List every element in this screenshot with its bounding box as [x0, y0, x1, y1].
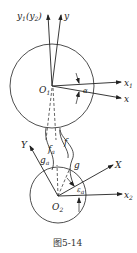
- gear-coordinate-diagram: y1(y2) y O1 x1 x α fa f ga g Y X x2 O2 ε…: [0, 0, 137, 253]
- dashed-line-o2-right: [58, 168, 70, 196]
- axis-y-arrow: [52, 15, 61, 86]
- axis-x-label: x: [124, 94, 129, 104]
- origin-o1-label: O1: [39, 85, 50, 96]
- curve-g-a-label: ga: [40, 155, 50, 166]
- axis-X-label: X: [114, 160, 122, 170]
- axis-x2-label: x2: [124, 190, 133, 201]
- axis-x1-label: x1: [124, 78, 133, 89]
- curve-g-label: g: [74, 160, 80, 170]
- alpha-indicator-top: [76, 73, 79, 83]
- angle-alpha-label: α: [83, 87, 88, 95]
- axis-x1-arrow: [52, 82, 121, 86]
- axis-y1-label: y1(y2): [16, 11, 42, 22]
- dashed-line-o2-left: [57, 165, 58, 196]
- dashed-line-right: [53, 88, 56, 140]
- axis-x2-arrow: [58, 194, 122, 196]
- axis-Y-label: Y: [21, 140, 28, 150]
- origin-o2-label: O2: [52, 202, 63, 213]
- axis-y1-arrow: [48, 15, 52, 86]
- figure-caption: 图5-14: [53, 238, 82, 248]
- curve-f-a-label: fa: [47, 144, 55, 155]
- alpha-indicator-bottom: [76, 92, 79, 104]
- axis-y-label: y: [63, 11, 70, 21]
- curve-f-label: f: [63, 137, 69, 147]
- angle-epsilon-label: εa: [77, 186, 85, 195]
